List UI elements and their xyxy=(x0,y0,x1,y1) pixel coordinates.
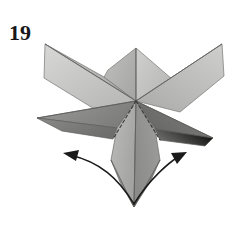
arrow-unfold-left-head xyxy=(63,150,79,161)
origami-step-figure: 19 xyxy=(0,0,237,231)
arrow-unfold-right-head xyxy=(171,152,187,164)
paper-facets xyxy=(37,44,224,207)
origami-diagram xyxy=(0,0,237,231)
